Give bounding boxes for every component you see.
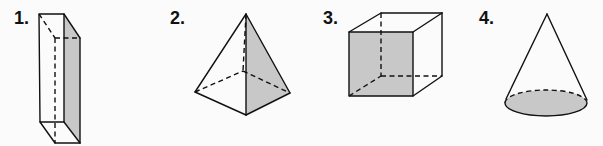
cube-figure bbox=[349, 13, 442, 96]
pyramid-shaded-face bbox=[246, 14, 290, 115]
cone-figure bbox=[505, 14, 587, 116]
prism-front-face bbox=[39, 14, 64, 122]
prism-hidden-edge bbox=[39, 14, 55, 38]
figures-canvas bbox=[0, 0, 603, 146]
square-pyramid-figure bbox=[195, 14, 290, 115]
rectangular-prism-figure bbox=[39, 14, 80, 143]
